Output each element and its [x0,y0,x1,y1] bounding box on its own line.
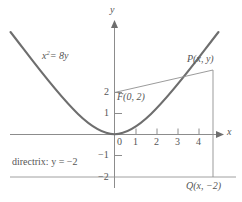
y-axis-arrow-icon [111,20,118,28]
x-tick-label-2: 2 [154,137,159,147]
equation-rest: = 8y [50,50,69,61]
focus-label: F(0, 2) [117,92,145,102]
y-tick-label-neg1: −1 [98,150,109,160]
y-tick-label-2: 2 [104,87,109,97]
directrix-label: directrix: y = −2 [12,157,77,167]
parabola-figure: y x x2= 8y F(0, 2) P(x, y) Q(x, −2) dire… [0,0,242,202]
x-tick-label-4: 4 [196,137,201,147]
curve-equation-label: x2= 8y [42,50,68,61]
point-q-label: Q(x, −2) [186,181,221,191]
y-tick-label-1: 1 [104,108,109,118]
x-axis-arrow-icon [216,131,224,138]
x-tick-label-3: 3 [175,137,180,147]
x-tick-label-1: 1 [133,137,138,147]
x-axis-label: x [227,127,231,137]
y-axis-label: y [110,5,114,15]
x-tick-label-0: 0 [117,137,122,147]
y-tick-label-neg2: −2 [98,172,109,182]
focal-radius-line [115,70,214,93]
point-p-label: P(x, y) [187,54,214,64]
